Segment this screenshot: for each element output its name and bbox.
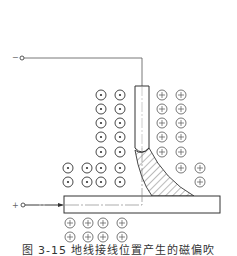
field-out-symbols	[63, 90, 125, 187]
terminal-node-icon	[21, 203, 25, 207]
negative-terminal: −	[12, 53, 142, 86]
figure-caption: 图 3-15 地线接线位置产生的磁偏吹	[0, 244, 237, 256]
electrode	[135, 86, 149, 152]
workpiece-plate	[24, 148, 220, 213]
current-arrow-icon	[58, 203, 64, 207]
terminal-node-icon	[20, 56, 24, 60]
negative-sign: −	[12, 53, 19, 62]
arc-blow-diagram: − +	[0, 0, 237, 256]
field-in-symbols-below-plate	[65, 218, 127, 242]
positive-sign: +	[12, 201, 19, 210]
positive-terminal: +	[12, 201, 64, 210]
electrode-lead-wire	[24, 58, 142, 86]
